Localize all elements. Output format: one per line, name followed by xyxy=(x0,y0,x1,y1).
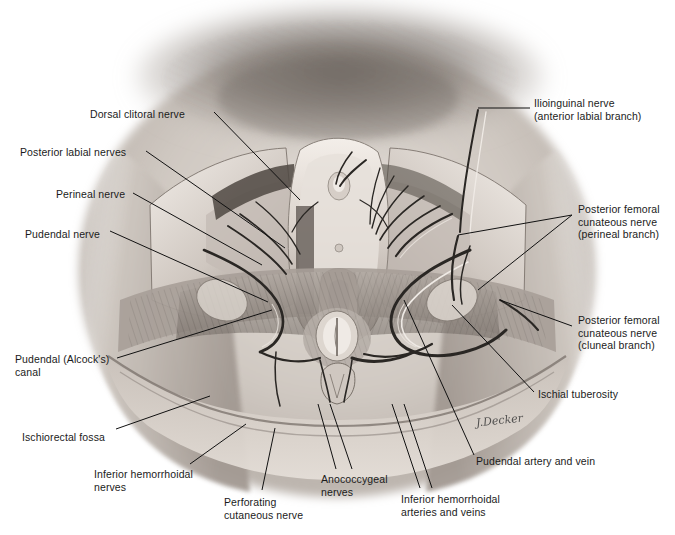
label-ilioinguinal-nerve: Ilioinguinal nerve (anterior labial bran… xyxy=(534,97,641,122)
anatomical-figure: Dorsal clitoral nervePosterior labial ne… xyxy=(0,0,675,535)
label-posterior-femoral-cutaneous-cluneal: Posterior femoral cunateous nerve (clune… xyxy=(578,314,660,352)
label-posterior-labial-nerves: Posterior labial nerves xyxy=(20,146,126,159)
label-perforating-cutaneous-nerve: Perforating cutaneous nerve xyxy=(224,496,303,521)
label-inferior-hemorrhoidal-nerves: Inferior hemorrhoidal nerves xyxy=(94,468,193,493)
label-anococcygeal-nerves: Anococcygeal nerves xyxy=(321,473,388,498)
label-posterior-femoral-cutaneous-perineal: Posterior femoral cunateous nerve (perin… xyxy=(578,203,660,241)
label-pudendal-alcocks-canal: Pudendal (Alcock's) canal xyxy=(15,353,109,378)
label-pudendal-artery-and-vein: Pudendal artery and vein xyxy=(476,455,595,468)
label-dorsal-clitoral-nerve: Dorsal clitoral nerve xyxy=(90,108,185,121)
label-inferior-hemorrhoidal-arteries-veins: Inferior hemorrhoidal arteries and veins xyxy=(401,493,500,518)
label-perineal-nerve: Perineal nerve xyxy=(56,188,125,201)
label-ischiorectal-fossa: Ischiorectal fossa xyxy=(22,431,105,444)
label-pudendal-nerve: Pudendal nerve xyxy=(25,228,100,241)
label-ischial-tuberosity: Ischial tuberosity xyxy=(538,388,618,401)
